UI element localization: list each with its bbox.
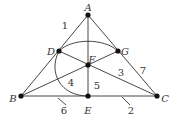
line-label-1: 1: [62, 20, 68, 31]
point-label-F: F: [88, 54, 97, 65]
point-label-B: B: [8, 93, 16, 104]
line-labels: 1734562: [61, 20, 146, 116]
point-B: [18, 93, 23, 98]
line-label-2: 2: [128, 105, 134, 116]
arc-DE: [55, 51, 88, 96]
line-BG: [21, 51, 118, 96]
line-label-3: 3: [118, 67, 124, 78]
point-A: [85, 12, 90, 17]
point-D: [56, 48, 61, 53]
point-label-C: C: [161, 93, 169, 104]
line-label-6: 6: [61, 105, 67, 116]
line-label-5: 5: [94, 80, 100, 91]
point-label-G: G: [121, 46, 129, 57]
point-label-A: A: [83, 2, 91, 13]
line-label-4: 4: [68, 77, 74, 88]
arc-DG: [59, 41, 118, 51]
fano-diagram: ADGFBEC 1734562: [0, 0, 180, 119]
line-label-7: 7: [140, 65, 146, 76]
point-label-D: D: [46, 46, 55, 57]
point-label-E: E: [83, 105, 92, 116]
point-C: [154, 93, 159, 98]
point-E: [85, 93, 90, 98]
point-G: [115, 48, 120, 53]
